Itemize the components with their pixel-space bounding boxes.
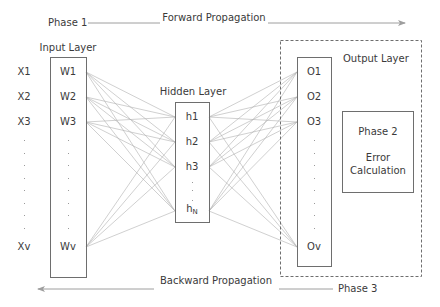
hidden-node-h1: h1 xyxy=(186,111,199,123)
output-node-o1: O1 xyxy=(307,66,321,78)
weight-wv: Wv xyxy=(60,241,76,253)
output-layer-box xyxy=(298,58,332,267)
hidden-node-h3: h3 xyxy=(186,161,199,173)
hidden-output-connections xyxy=(209,72,297,247)
hidden-layer-title: Hidden Layer xyxy=(160,86,227,98)
input-x3: X3 xyxy=(17,116,30,128)
output-layer-title: Output Layer xyxy=(343,53,409,65)
input-x1: X1 xyxy=(17,66,30,78)
phase-3-label: Phase 3 xyxy=(338,283,377,295)
weight-w1: W1 xyxy=(60,66,76,78)
hidden-node-h2: h2 xyxy=(186,136,199,148)
calculation-label: Calculation xyxy=(350,165,406,177)
hidden-node-hn: hN xyxy=(186,203,198,218)
output-node-o3: O3 xyxy=(307,116,321,128)
error-label: Error xyxy=(366,152,390,164)
input-layer-title: Input Layer xyxy=(40,42,97,54)
phase-1-label: Phase 1 xyxy=(48,17,87,29)
hidden-node-hn-subscript: N xyxy=(193,208,198,216)
output-layer-dashed-region xyxy=(281,41,422,277)
input-hidden-connections xyxy=(86,72,175,247)
input-x2: X2 xyxy=(17,91,30,103)
input-xv: Xv xyxy=(18,241,31,253)
output-node-ov: Ov xyxy=(307,241,321,253)
output-node-o2: O2 xyxy=(307,91,321,103)
backward-propagation-label: Backward Propagation xyxy=(160,275,272,287)
phase-2-label: Phase 2 xyxy=(358,126,397,138)
weight-w3: W3 xyxy=(60,116,76,128)
forward-propagation-label: Forward Propagation xyxy=(162,12,265,24)
weight-w2: W2 xyxy=(60,91,76,103)
